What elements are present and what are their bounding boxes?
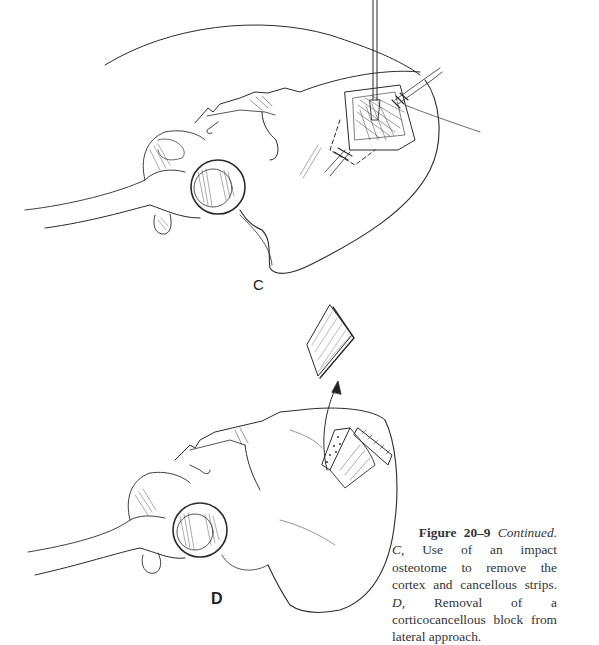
panel-d-drawing — [28, 305, 397, 612]
caption-figure-number: Figure 20–9 — [419, 525, 491, 540]
panel-label-c: C — [253, 276, 264, 293]
caption-panel-d-text: Removal of a corticocancellous block fro… — [392, 595, 557, 645]
panel-c-drawing — [25, 0, 480, 273]
caption-continued: Continued. — [498, 525, 557, 540]
figure-20-9: C D Figure 20–9 Continued. C, Use of an … — [0, 0, 599, 645]
panel-label-d: D — [211, 590, 223, 608]
caption-panel-c-text: Use of an impact osteotome to remove the… — [392, 542, 557, 592]
caption-panel-c-letter: C, — [392, 542, 404, 557]
figure-caption: Figure 20–9 Continued. C, Use of an impa… — [392, 524, 557, 645]
caption-panel-d-letter: D, — [392, 595, 405, 610]
